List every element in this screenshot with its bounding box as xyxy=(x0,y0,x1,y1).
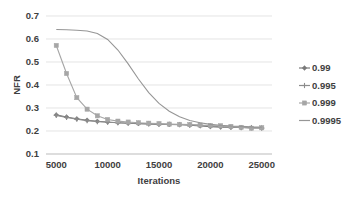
series-0-999 xyxy=(54,43,264,130)
data-point-marker xyxy=(54,43,58,47)
data-point-marker xyxy=(302,83,307,88)
data-point-marker xyxy=(116,119,120,123)
legend-label: 0.999 xyxy=(312,97,336,108)
series-0-9995 xyxy=(56,30,261,128)
legend-item-0-9995[interactable]: 0.9995 xyxy=(299,115,342,126)
data-point-marker xyxy=(126,120,130,124)
data-point-marker xyxy=(64,71,68,75)
line-chart: 0.10.20.30.40.50.60.7 500010000150002000… xyxy=(0,0,353,199)
x-axis-tick-labels: 500010000150002000025000 xyxy=(46,159,275,170)
legend: 0.990.9950.9990.9995 xyxy=(299,62,342,126)
data-point-marker xyxy=(106,117,110,121)
data-point-marker xyxy=(260,126,264,130)
data-point-marker xyxy=(85,107,89,111)
y-axis-tick-label: 0.6 xyxy=(26,33,39,44)
y-axis-tick-label: 0.7 xyxy=(26,10,39,21)
chart-container: 0.10.20.30.40.50.60.7 500010000150002000… xyxy=(0,0,353,199)
data-point-marker xyxy=(75,96,79,100)
y-axis-title: NFR xyxy=(11,75,22,95)
x-axis-tick-label: 20000 xyxy=(197,159,223,170)
y-axis-tick-label: 0.1 xyxy=(26,148,40,159)
y-axis-tick-label: 0.4 xyxy=(26,79,40,90)
x-axis-tick-label: 25000 xyxy=(249,159,275,170)
data-point-marker xyxy=(54,113,59,118)
legend-label: 0.99 xyxy=(312,62,331,73)
data-point-marker xyxy=(167,122,171,126)
data-point-marker xyxy=(84,118,89,123)
data-point-marker xyxy=(157,122,161,126)
data-point-marker xyxy=(95,114,99,118)
x-axis-title: Iterations xyxy=(138,175,181,186)
plot-gridlines xyxy=(46,16,272,154)
data-point-marker xyxy=(302,66,307,71)
series-line xyxy=(56,30,261,128)
x-axis-tick-label: 10000 xyxy=(94,159,120,170)
x-axis-tick-label: 15000 xyxy=(146,159,172,170)
y-axis-tick-label: 0.5 xyxy=(26,56,40,67)
legend-label: 0.995 xyxy=(312,80,336,91)
data-point-marker xyxy=(147,121,151,125)
data-point-marker xyxy=(136,121,140,125)
data-point-marker xyxy=(302,101,306,105)
data-point-marker xyxy=(188,122,192,126)
legend-item-0-995[interactable]: 0.995 xyxy=(299,80,336,91)
y-axis-tick-labels: 0.10.20.30.40.50.60.7 xyxy=(26,10,40,159)
data-point-marker xyxy=(177,122,181,126)
data-series-group xyxy=(54,30,265,131)
legend-label: 0.9995 xyxy=(312,115,342,126)
x-axis-tick-label: 5000 xyxy=(46,159,67,170)
data-point-marker xyxy=(64,115,69,120)
series-line xyxy=(56,45,261,128)
legend-item-0-99[interactable]: 0.99 xyxy=(299,62,331,73)
y-axis-tick-label: 0.3 xyxy=(26,102,39,113)
data-point-marker xyxy=(95,119,100,124)
legend-item-0-999[interactable]: 0.999 xyxy=(299,97,336,108)
data-point-marker xyxy=(198,123,202,127)
data-point-marker xyxy=(74,117,79,122)
y-axis-tick-label: 0.2 xyxy=(26,125,39,136)
